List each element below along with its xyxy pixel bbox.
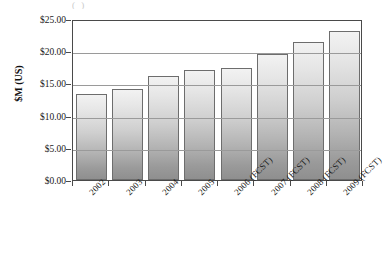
plot-area: [72, 20, 362, 181]
y-tick-mark: [66, 52, 71, 53]
y-tick-label: $5.00: [4, 144, 66, 154]
y-tick-label: $0.00: [4, 176, 66, 186]
y-tick-mark: [66, 84, 71, 85]
bar: [148, 76, 179, 180]
bars-group: [73, 21, 361, 180]
y-tick-label: $20.00: [4, 47, 66, 57]
x-tick-mark: [217, 181, 218, 186]
x-tick-mark: [108, 181, 109, 186]
gridline: [73, 150, 361, 151]
bar: [112, 89, 143, 180]
gridline: [73, 53, 361, 54]
y-tick-label: $25.00: [4, 15, 66, 25]
y-tick-mark: [66, 20, 71, 21]
y-tick-mark: [66, 149, 71, 150]
y-axis: $M (US) $0.00$5.00$10.00$15.00$20.00$25.…: [0, 0, 66, 260]
y-tick-mark: [66, 117, 71, 118]
gridline: [73, 118, 361, 119]
x-tick-mark: [181, 181, 182, 186]
y-tick-mark: [66, 181, 71, 182]
bar: [76, 94, 107, 180]
y-tick-label: $10.00: [4, 112, 66, 122]
y-tick-label: $15.00: [4, 79, 66, 89]
clipped-title-remnant: ( ): [72, 0, 192, 9]
bar: [184, 70, 215, 180]
x-tick-mark: [72, 181, 73, 186]
gridline: [73, 85, 361, 86]
